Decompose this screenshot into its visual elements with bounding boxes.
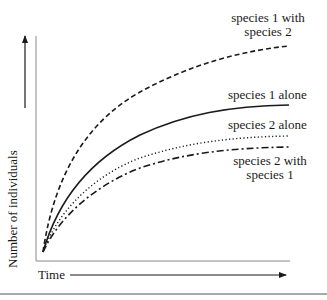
label-line: species 2 with [220, 154, 320, 168]
label-line: species 2 [218, 25, 318, 39]
label-species1-with-species2: species 1 with species 2 [218, 11, 318, 39]
label-species1-alone: species 1 alone [228, 88, 307, 102]
label-species2-with-species1: species 2 with species 1 [220, 154, 320, 182]
y-axis-label: Number of individuals [6, 150, 20, 268]
label-line: species 1 with [218, 11, 318, 25]
x-axis-label: Time [38, 268, 65, 282]
chart-figure [0, 0, 327, 300]
label-species2-alone: species 2 alone [228, 118, 307, 132]
label-line: species 1 [220, 168, 320, 182]
